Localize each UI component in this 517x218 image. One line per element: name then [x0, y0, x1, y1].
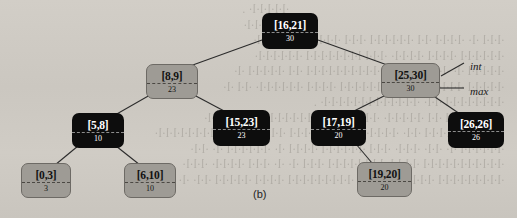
- node-max: 20: [358, 182, 411, 194]
- int-label: int: [470, 60, 482, 72]
- tree-node-n19_20[interactable]: [19,20]20: [357, 162, 412, 197]
- tree-edge: [318, 40, 390, 66]
- figure-caption: (b): [253, 188, 266, 200]
- node-max: 26: [448, 132, 504, 144]
- tree-node-n16_21[interactable]: [16,21]30: [262, 13, 318, 49]
- node-interval: [6,10]: [125, 167, 175, 182]
- tree-node-n17_19[interactable]: [17,19]20: [311, 110, 366, 146]
- node-interval: [26,26]: [448, 116, 504, 131]
- node-interval: [8,9]: [147, 68, 197, 83]
- node-interval: [25,30]: [382, 67, 439, 82]
- node-interval: [16,21]: [262, 17, 318, 32]
- tree-edge: [115, 95, 150, 115]
- node-max: 20: [311, 130, 366, 142]
- node-max: 23: [213, 130, 270, 142]
- node-max: 10: [125, 183, 175, 195]
- node-max: 30: [382, 83, 439, 95]
- tree-node-n25_30[interactable]: [25,30]30: [381, 63, 440, 98]
- node-interval: [5,8]: [72, 117, 124, 132]
- node-max: 10: [72, 133, 124, 145]
- node-max: 23: [147, 84, 197, 96]
- max-label: max: [470, 85, 488, 97]
- tree-node-n15_23[interactable]: [15,23]23: [213, 110, 270, 146]
- annotation-leader-line: [441, 63, 464, 76]
- tree-node-n5_8[interactable]: [5,8]10: [72, 113, 124, 148]
- tree-node-n6_10[interactable]: [6,10]10: [124, 163, 176, 198]
- node-interval: [0,3]: [22, 167, 70, 182]
- node-max: 30: [262, 33, 318, 45]
- interval-tree-figure: [16,21]30[8,9]23[25,30]30[5,8]10[15,23]2…: [0, 0, 517, 218]
- tree-node-n0_3[interactable]: [0,3]3: [21, 163, 71, 198]
- node-interval: [17,19]: [311, 114, 366, 129]
- tree-edge: [356, 144, 372, 163]
- node-interval: [15,23]: [213, 114, 270, 129]
- node-max: 3: [22, 183, 70, 195]
- tree-node-n26_26[interactable]: [26,26]26: [448, 112, 504, 148]
- node-interval: [19,20]: [358, 166, 411, 181]
- tree-node-n8_9[interactable]: [8,9]23: [146, 64, 198, 99]
- tree-edges: [0, 0, 517, 218]
- tree-edge: [190, 40, 262, 66]
